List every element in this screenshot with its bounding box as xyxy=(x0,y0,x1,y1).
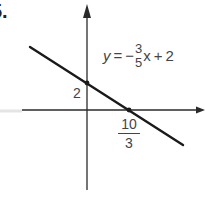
equation-sign: − xyxy=(125,47,134,64)
coef-denominator: 5 xyxy=(135,56,142,69)
equation-label: y = − 3 5 x + 2 xyxy=(103,42,174,69)
x-intercept-denominator: 3 xyxy=(125,136,133,151)
coef-numerator: 3 xyxy=(134,42,143,55)
fraction-bar xyxy=(118,133,140,134)
coordinate-graph: 5. y = − 3 5 x + 2 2 10 3 xyxy=(0,0,205,203)
y-intercept-point xyxy=(85,81,90,86)
equation-constant: 2 xyxy=(166,47,174,64)
equation-coefficient-fraction: 3 5 xyxy=(134,42,143,69)
graph-canvas xyxy=(0,0,205,203)
y-intercept-label: 2 xyxy=(73,86,81,100)
equation-variable: x xyxy=(143,47,151,64)
x-intercept-label: 10 3 xyxy=(118,117,140,151)
x-intercept-point xyxy=(127,108,132,113)
equation-lhs: y xyxy=(103,47,111,64)
equation-equals: = xyxy=(114,47,123,64)
equation-plus: + xyxy=(154,47,163,64)
x-intercept-numerator: 10 xyxy=(121,117,137,132)
x-axis-arrow-icon xyxy=(196,107,205,114)
y-axis-arrow-icon xyxy=(83,4,91,18)
